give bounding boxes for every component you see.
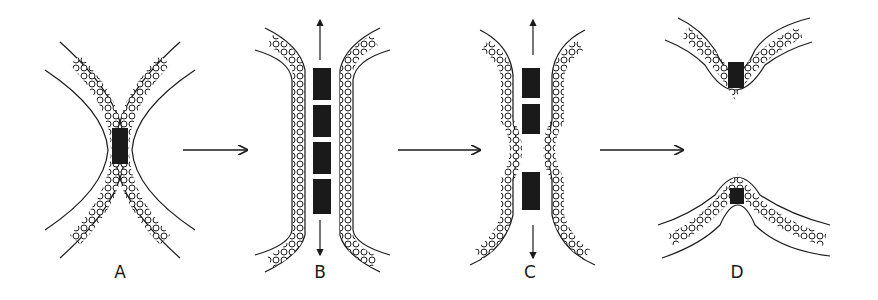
panel-b bbox=[255, 20, 390, 272]
panel-label-c: C bbox=[524, 262, 536, 282]
panel-d bbox=[658, 18, 830, 258]
panel-label-d: D bbox=[730, 262, 743, 282]
panel-label-b: B bbox=[314, 262, 326, 282]
panel-c bbox=[470, 20, 595, 265]
panel-a bbox=[45, 42, 195, 258]
membrane-fusion-diagram bbox=[0, 0, 878, 300]
panel-label-a: A bbox=[114, 262, 126, 282]
